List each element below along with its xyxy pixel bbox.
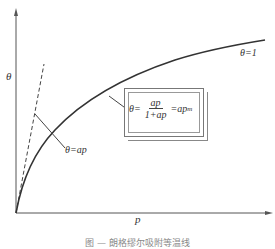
linear-limit-dashed-line bbox=[16, 64, 44, 213]
langmuir-formula: θ= ap 1+ap =apm bbox=[129, 97, 192, 120]
x-axis-arrow-icon bbox=[265, 211, 273, 215]
formula-numerator: ap bbox=[149, 97, 163, 109]
formula-rhs: =ap bbox=[170, 103, 187, 114]
figure-caption: 图 — 朗格缪尔吸附等温线 bbox=[0, 236, 275, 249]
formula-fraction: ap 1+ap bbox=[143, 97, 169, 120]
formula-exponent: m bbox=[187, 105, 192, 113]
formula-box: θ= ap 1+ap =apm bbox=[124, 88, 204, 137]
linear-label-leader bbox=[35, 114, 65, 148]
y-axis-label: θ bbox=[6, 70, 11, 82]
x-axis-label: p bbox=[135, 213, 141, 225]
formula-lhs: θ= bbox=[129, 103, 141, 114]
y-axis-arrow-icon bbox=[14, 8, 18, 16]
formula-denominator: 1+ap bbox=[143, 109, 169, 120]
linear-label: θ=ap bbox=[65, 144, 87, 155]
saturation-label: θ=1 bbox=[240, 47, 257, 58]
